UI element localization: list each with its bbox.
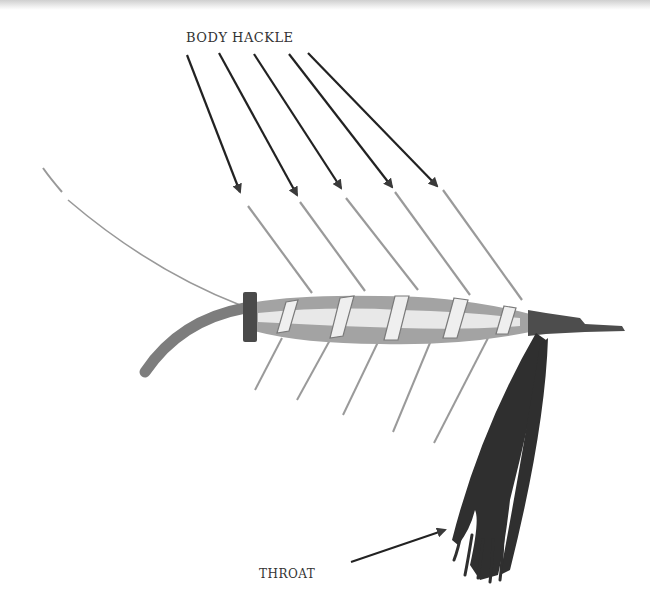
fly-diagram	[0, 0, 650, 608]
throat	[452, 333, 548, 580]
tail	[43, 168, 240, 305]
body-hackle-lower	[255, 338, 488, 443]
butt-wrap	[243, 292, 257, 342]
hook-bend	[145, 308, 245, 372]
arrow-4	[289, 54, 392, 187]
body-hackle-arrows	[187, 53, 437, 195]
body-hackle-label: BODY HACKLE	[186, 30, 294, 45]
throat-arrow	[351, 530, 445, 562]
fly-body	[250, 296, 530, 345]
arrow-2	[219, 53, 297, 195]
throat-label: THROAT	[259, 567, 315, 581]
fly-head	[528, 310, 625, 336]
body-hackle-upper	[248, 190, 522, 300]
